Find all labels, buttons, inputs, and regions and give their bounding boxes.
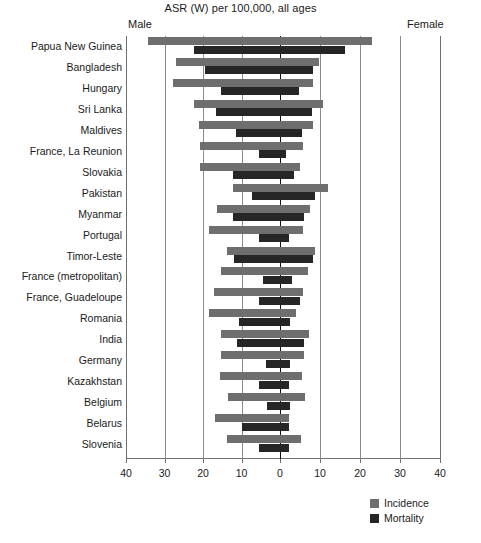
bar-incidence <box>220 372 302 380</box>
x-tick-label: 20 <box>354 467 366 479</box>
bar-incidence <box>209 309 296 317</box>
gridline <box>126 36 127 459</box>
gridline <box>440 36 441 459</box>
bar-mortality <box>233 171 294 179</box>
bar-incidence <box>215 414 289 422</box>
bar-incidence <box>176 58 319 66</box>
category-label: France (metropolitan) <box>2 270 122 282</box>
bar-mortality <box>233 213 304 221</box>
x-tick-mark <box>203 459 204 463</box>
bar-mortality <box>259 444 289 452</box>
legend-label-mortality: Mortality <box>384 512 424 524</box>
bar-mortality <box>239 318 290 326</box>
x-tick-label: 40 <box>434 467 446 479</box>
bar-mortality <box>242 423 289 431</box>
category-label: Papua New Guinea <box>2 40 122 52</box>
bar-mortality <box>216 108 312 116</box>
bar-incidence <box>199 121 313 129</box>
bar-incidence <box>214 288 303 296</box>
bar-incidence <box>200 163 300 171</box>
bar-mortality <box>259 297 300 305</box>
bar-incidence <box>221 330 309 338</box>
bar-incidence <box>227 247 315 255</box>
bar-incidence <box>221 267 308 275</box>
bar-incidence <box>148 37 372 45</box>
x-tick-label: 10 <box>314 467 326 479</box>
bar-mortality <box>236 129 302 137</box>
x-tick-mark <box>360 459 361 463</box>
x-tick-mark <box>242 459 243 463</box>
bar-mortality <box>237 339 304 347</box>
bar-incidence <box>200 142 303 150</box>
bar-incidence <box>173 79 313 87</box>
category-label: Pakistan <box>2 187 122 199</box>
category-label: Timor-Leste <box>2 250 122 262</box>
incidence-swatch-icon <box>370 499 379 508</box>
x-tick-mark <box>280 459 281 463</box>
category-label: Belarus <box>2 417 122 429</box>
category-label: Bangladesh <box>2 61 122 73</box>
bar-incidence <box>233 184 328 192</box>
x-tick-mark <box>126 459 127 463</box>
category-label: Slovenia <box>2 438 122 450</box>
x-tick-label: 30 <box>159 467 171 479</box>
category-label: Belgium <box>2 396 122 408</box>
plot-area: 40302010010203040 <box>126 36 440 459</box>
bar-incidence <box>228 393 305 401</box>
legend-item-mortality: Mortality <box>370 512 429 524</box>
legend-item-incidence: Incidence <box>370 497 429 509</box>
x-tick-label: 30 <box>394 467 406 479</box>
bar-mortality <box>252 192 315 200</box>
x-tick-label: 20 <box>197 467 209 479</box>
x-axis-line <box>126 458 440 459</box>
bar-mortality <box>234 255 313 263</box>
category-label: Germany <box>2 354 122 366</box>
category-label: India <box>2 333 122 345</box>
x-tick-mark <box>165 459 166 463</box>
category-label: Hungary <box>2 82 122 94</box>
chart-title: ASR (W) per 100,000, all ages <box>0 2 481 14</box>
category-label: Maldives <box>2 124 122 136</box>
category-label: France, La Reunion <box>2 145 122 157</box>
bar-mortality <box>259 234 289 242</box>
x-tick-label: 0 <box>277 467 283 479</box>
male-side-label: Male <box>128 18 152 30</box>
chart-container: ASR (W) per 100,000, all ages Male Femal… <box>0 0 481 543</box>
bar-incidence <box>227 435 301 443</box>
category-label: Kazakhstan <box>2 375 122 387</box>
bar-mortality <box>259 381 289 389</box>
bar-mortality <box>267 402 290 410</box>
category-label: Portugal <box>2 229 122 241</box>
bar-incidence <box>209 226 303 234</box>
bar-mortality <box>263 276 292 284</box>
gridline <box>165 36 166 459</box>
bar-incidence <box>217 205 310 213</box>
category-label: Sri Lanka <box>2 103 122 115</box>
category-label: Slovakia <box>2 166 122 178</box>
category-label: Romania <box>2 312 122 324</box>
gridline <box>400 36 401 459</box>
mortality-swatch-icon <box>370 514 379 523</box>
x-tick-mark <box>400 459 401 463</box>
category-labels-column: Papua New GuineaBangladeshHungarySri Lan… <box>0 36 122 459</box>
bar-mortality <box>259 150 286 158</box>
bar-incidence <box>194 100 323 108</box>
chart-legend: Incidence Mortality <box>370 497 429 527</box>
category-label: France, Guadeloupe <box>2 291 122 303</box>
bar-mortality <box>194 46 345 54</box>
x-tick-label: 40 <box>120 467 132 479</box>
gridline <box>360 36 361 459</box>
legend-label-incidence: Incidence <box>384 497 429 509</box>
category-label: Myanmar <box>2 208 122 220</box>
bar-incidence <box>221 351 304 359</box>
x-tick-mark <box>320 459 321 463</box>
x-tick-label: 10 <box>236 467 248 479</box>
bar-mortality <box>205 66 313 74</box>
bar-mortality <box>221 87 299 95</box>
female-side-label: Female <box>407 18 444 30</box>
x-tick-mark <box>440 459 441 463</box>
bar-mortality <box>266 360 290 368</box>
